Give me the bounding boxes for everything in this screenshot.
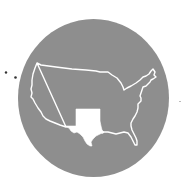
circle-background <box>18 19 169 177</box>
dot-icon <box>14 76 17 79</box>
stray-mark <box>179 101 181 102</box>
dot-icon <box>5 71 7 73</box>
us-map-icon-figure <box>0 0 182 190</box>
